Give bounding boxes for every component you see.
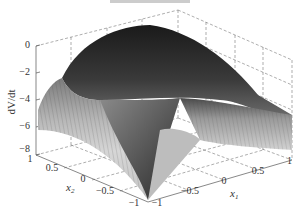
- svg-text:−1: −1: [152, 197, 163, 208]
- svg-text:1: 1: [28, 153, 33, 164]
- z-axis-label: dV/dt: [5, 89, 17, 114]
- chart-title-fragment: [110, 0, 190, 3]
- svg-text:0: 0: [25, 39, 30, 50]
- svg-text:−0.5: −0.5: [181, 185, 199, 196]
- svg-text:−0.5: −0.5: [96, 185, 114, 196]
- x1-axis-label: x1: [229, 187, 238, 201]
- surface-plot: 0 −2 −4 −6 −8 dV/dt 1 0.5 0 −0.5 −1 x2 −…: [0, 0, 296, 208]
- svg-text:−2: −2: [19, 66, 30, 77]
- svg-text:0: 0: [81, 173, 86, 184]
- svg-text:−4: −4: [19, 93, 30, 104]
- svg-text:−1: −1: [129, 197, 140, 208]
- svg-text:−6: −6: [19, 120, 30, 131]
- svg-text:1: 1: [287, 155, 292, 166]
- x2-axis-label: x2: [65, 181, 75, 195]
- svg-text:0.5: 0.5: [46, 162, 59, 173]
- svg-text:0.5: 0.5: [252, 165, 265, 176]
- svg-text:0: 0: [222, 175, 227, 186]
- z-tick-labels: 0 −2 −4 −6 −8: [19, 39, 30, 154]
